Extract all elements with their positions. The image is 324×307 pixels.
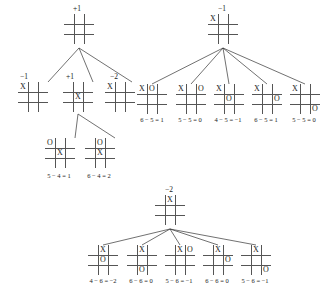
cell-empty[interactable] — [28, 92, 38, 102]
cell-empty[interactable] — [157, 104, 167, 114]
cell-empty[interactable] — [203, 245, 213, 255]
cell-empty[interactable] — [234, 94, 244, 104]
cell-empty[interactable] — [28, 102, 38, 112]
cell-empty[interactable] — [147, 104, 157, 114]
cell-empty[interactable] — [252, 104, 262, 114]
cell-empty[interactable] — [241, 255, 251, 265]
cell-empty[interactable] — [241, 265, 251, 275]
cell-empty[interactable] — [300, 94, 310, 104]
cell-empty[interactable] — [218, 24, 228, 34]
cell-empty[interactable] — [176, 104, 186, 114]
cell-empty[interactable] — [84, 14, 94, 24]
cell-empty[interactable] — [83, 102, 93, 112]
cell-empty[interactable] — [155, 215, 165, 225]
cell-empty[interactable] — [125, 92, 135, 102]
cell-empty[interactable] — [262, 104, 272, 114]
cell-empty[interactable] — [64, 34, 74, 44]
cell-empty[interactable] — [18, 102, 28, 112]
cell-empty[interactable] — [127, 265, 137, 275]
cell-empty[interactable] — [272, 84, 282, 94]
cell-empty[interactable] — [262, 84, 272, 94]
cell-empty[interactable] — [45, 148, 55, 158]
cell-empty[interactable] — [185, 265, 195, 275]
cell-empty[interactable] — [252, 94, 262, 104]
cell-empty[interactable] — [108, 245, 118, 255]
cell-empty[interactable] — [176, 94, 186, 104]
cell-empty[interactable] — [83, 92, 93, 102]
cell-empty[interactable] — [234, 84, 244, 94]
cell-empty[interactable] — [125, 102, 135, 112]
cell-empty[interactable] — [214, 104, 224, 114]
cell-empty[interactable] — [147, 255, 157, 265]
cell-empty[interactable] — [224, 84, 234, 94]
cell-empty[interactable] — [208, 24, 218, 34]
cell-empty[interactable] — [186, 84, 196, 94]
cell-empty[interactable] — [155, 205, 165, 215]
cell-empty[interactable] — [28, 82, 38, 92]
cell-empty[interactable] — [55, 138, 65, 148]
cell-empty[interactable] — [175, 195, 185, 205]
cell-empty[interactable] — [65, 148, 75, 158]
cell-empty[interactable] — [214, 94, 224, 104]
cell-x-mark[interactable]: X — [18, 82, 28, 92]
cell-empty[interactable] — [85, 158, 95, 168]
cell-x-mark[interactable]: X — [213, 245, 223, 255]
cell-empty[interactable] — [74, 14, 84, 24]
cell-empty[interactable] — [63, 92, 73, 102]
cell-empty[interactable] — [196, 94, 206, 104]
cell-x-mark[interactable]: X — [73, 92, 83, 102]
cell-empty[interactable] — [165, 265, 175, 275]
cell-o-mark[interactable]: O — [98, 255, 108, 265]
cell-empty[interactable] — [55, 158, 65, 168]
cell-empty[interactable] — [108, 255, 118, 265]
cell-empty[interactable] — [251, 265, 261, 275]
cell-empty[interactable] — [223, 265, 233, 275]
cell-empty[interactable] — [213, 265, 223, 275]
cell-empty[interactable] — [165, 215, 175, 225]
cell-empty[interactable] — [84, 34, 94, 44]
cell-empty[interactable] — [105, 138, 115, 148]
cell-x-mark[interactable]: X — [290, 84, 300, 94]
cell-x-mark[interactable]: X — [105, 82, 115, 92]
cell-o-mark[interactable]: O — [272, 94, 282, 104]
cell-o-mark[interactable]: O — [147, 84, 157, 94]
cell-o-mark[interactable]: O — [224, 94, 234, 104]
cell-empty[interactable] — [88, 245, 98, 255]
cell-empty[interactable] — [88, 255, 98, 265]
cell-empty[interactable] — [290, 104, 300, 114]
cell-o-mark[interactable]: O — [137, 265, 147, 275]
cell-empty[interactable] — [196, 104, 206, 114]
cell-empty[interactable] — [115, 82, 125, 92]
cell-empty[interactable] — [310, 94, 320, 104]
cell-empty[interactable] — [137, 255, 147, 265]
cell-empty[interactable] — [228, 14, 238, 24]
cell-empty[interactable] — [228, 34, 238, 44]
cell-empty[interactable] — [63, 102, 73, 112]
cell-empty[interactable] — [300, 104, 310, 114]
cell-empty[interactable] — [74, 34, 84, 44]
cell-empty[interactable] — [137, 104, 147, 114]
cell-x-mark[interactable]: X — [137, 245, 147, 255]
cell-x-mark[interactable]: X — [251, 245, 261, 255]
cell-empty[interactable] — [85, 148, 95, 158]
cell-empty[interactable] — [290, 94, 300, 104]
cell-empty[interactable] — [45, 158, 55, 168]
cell-o-mark[interactable]: O — [310, 104, 320, 114]
cell-x-mark[interactable]: X — [208, 14, 218, 24]
cell-o-mark[interactable]: O — [261, 265, 271, 275]
cell-empty[interactable] — [165, 245, 175, 255]
cell-empty[interactable] — [65, 138, 75, 148]
cell-empty[interactable] — [64, 24, 74, 34]
cell-empty[interactable] — [175, 205, 185, 215]
cell-x-mark[interactable]: X — [176, 84, 186, 94]
cell-empty[interactable] — [223, 245, 233, 255]
cell-empty[interactable] — [147, 265, 157, 275]
cell-empty[interactable] — [157, 84, 167, 94]
cell-empty[interactable] — [208, 34, 218, 44]
cell-empty[interactable] — [300, 84, 310, 94]
cell-empty[interactable] — [175, 255, 185, 265]
cell-o-mark[interactable]: O — [45, 138, 55, 148]
cell-x-mark[interactable]: X — [165, 195, 175, 205]
cell-o-mark[interactable]: O — [196, 84, 206, 94]
cell-x-mark[interactable]: X — [137, 84, 147, 94]
